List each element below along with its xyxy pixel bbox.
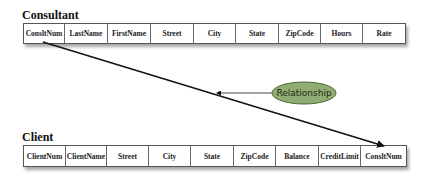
relationship-label: Relationship xyxy=(272,82,336,104)
relationship-connectors xyxy=(0,0,430,176)
